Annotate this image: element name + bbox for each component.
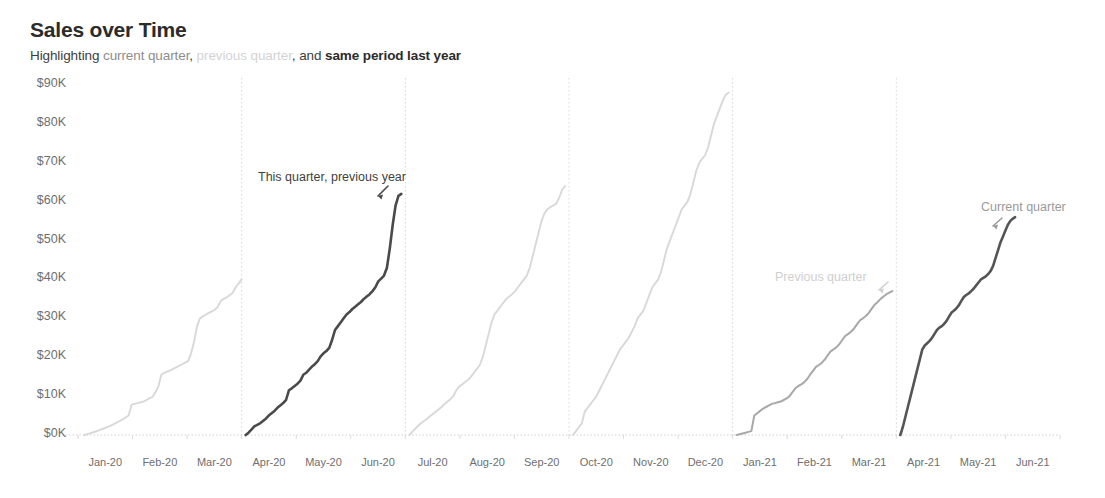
series-line-q1-2020: [84, 279, 242, 435]
y-axis-tick-label: $10K: [8, 387, 66, 401]
y-axis-tick-label: $20K: [8, 348, 66, 362]
y-axis-tick-label: $40K: [8, 270, 66, 284]
x-axis-tick-label: Jun-21: [998, 456, 1068, 468]
y-axis-tick-label: $50K: [8, 232, 66, 246]
y-axis-tick-label: $80K: [8, 115, 66, 129]
y-axis-tick-label: $30K: [8, 309, 66, 323]
annotation-this-quarter-previous-year: This quarter, previous year: [258, 170, 406, 184]
y-axis-tick-label: $0K: [8, 426, 66, 440]
chart-page: Sales over Time Highlighting current qua…: [0, 0, 1105, 498]
series-line-q1-2021: [737, 291, 893, 435]
annotation-previous-quarter: Previous quarter: [775, 270, 867, 284]
series-line-q2-2020: [246, 194, 402, 435]
chart-plot-area: $0K$10K$20K$30K$40K$50K$60K$70K$80K$90K …: [0, 0, 1105, 498]
chart-canvas: [0, 0, 1105, 498]
series-line-q3-2020: [409, 186, 565, 435]
annotation-current-quarter: Current quarter: [981, 200, 1066, 214]
series-line-q4-2020: [573, 93, 729, 435]
y-axis-tick-label: $60K: [8, 193, 66, 207]
series-line-q2-2021: [900, 217, 1015, 435]
y-axis-tick-label: $90K: [8, 76, 66, 90]
y-axis-tick-label: $70K: [8, 154, 66, 168]
